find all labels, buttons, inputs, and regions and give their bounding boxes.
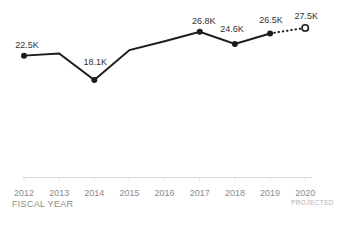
value-label-2019: 26.5K <box>259 15 283 25</box>
data-point-2017 <box>197 29 203 35</box>
x-tick-label-2016: 2016 <box>155 188 175 198</box>
x-tick-label-2013: 2013 <box>49 188 69 198</box>
data-point-2012 <box>21 53 27 59</box>
data-point-2014 <box>91 77 97 83</box>
projected-data-point-2020 <box>302 25 308 31</box>
x-tick-label-2017: 2017 <box>190 188 210 198</box>
value-label-2014: 18.1K <box>84 57 108 67</box>
value-label-2017: 26.8K <box>192 16 216 26</box>
x-tick-label-2014: 2014 <box>84 188 104 198</box>
projected-caption: PROJECTED <box>291 199 334 206</box>
trend-line <box>24 32 270 80</box>
x-axis-title: FISCAL YEAR <box>12 199 73 209</box>
x-tick-label-2018: 2018 <box>225 188 245 198</box>
x-tick-label-2020: 2020 <box>295 188 315 198</box>
value-label-2020: 27.5K <box>294 11 318 21</box>
fiscal-year-line-chart: 20122013201420152016201720182019202022.5… <box>0 0 339 225</box>
data-point-2018 <box>232 41 238 47</box>
projected-segment <box>270 28 305 34</box>
x-tick-label-2019: 2019 <box>260 188 280 198</box>
x-tick-label-2015: 2015 <box>119 188 139 198</box>
x-tick-label-2012: 2012 <box>14 188 34 198</box>
chart-container: 20122013201420152016201720182019202022.5… <box>0 0 339 225</box>
value-label-2018: 24.6K <box>220 24 244 34</box>
data-point-2019 <box>267 30 273 36</box>
value-label-2012: 22.5K <box>15 40 39 50</box>
